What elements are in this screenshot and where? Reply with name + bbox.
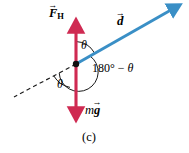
displacement-symbol: → d [117,14,124,27]
gravity-symbol: → g [94,104,100,117]
vector-arrow-accent-icon: → [48,1,57,10]
supplementary-angle-prefix: 180° − [92,61,128,75]
force-symbol: → F [49,7,57,20]
supplementary-angle-theta: θ [128,61,134,75]
displacement-vector-label: → d [117,14,124,27]
theta-top-label: θ [81,39,87,51]
dashed-construction-line [14,64,76,97]
vector-arrow-accent-icon: → [116,9,125,18]
supplementary-angle-label: 180° − θ [92,62,133,74]
physics-vector-figure: → F H → d m → g θ θ 180° − θ (c) [0,0,189,153]
displacement-vector [76,8,174,64]
force-vector-label: → F H [49,7,64,21]
theta-bottom-label: θ [57,78,63,90]
vector-arrow-accent-icon: → [93,98,102,107]
figure-caption: (c) [82,131,96,144]
weight-vector-label: m → g [85,104,100,117]
force-subscript: H [57,11,64,21]
origin-dot [73,61,79,67]
